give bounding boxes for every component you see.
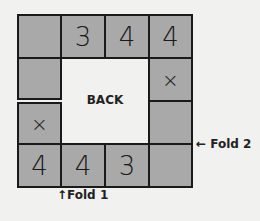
fold-1-label: ↑Fold 1 <box>57 188 108 202</box>
cell-r3-c1: 4 <box>60 143 106 188</box>
cell-r0-c1: 3 <box>60 14 106 59</box>
cell-r0-c2: 4 <box>104 14 150 59</box>
cell-r3-c3 <box>148 143 193 188</box>
fold-2-label: ← Fold 2 <box>196 137 251 151</box>
cell-r3-c0: 4 <box>17 143 62 188</box>
cell-r2-c3 <box>148 100 193 145</box>
cell-r2-c0: × <box>17 102 62 145</box>
cell-r3-c2: 3 <box>104 143 150 188</box>
back-label: BACK <box>62 57 148 143</box>
cell-r0-c0 <box>17 14 62 59</box>
cell-r0-c3: 4 <box>148 14 193 59</box>
cell-r1-c3: × <box>148 57 193 102</box>
cell-r1-c0 <box>17 57 62 100</box>
